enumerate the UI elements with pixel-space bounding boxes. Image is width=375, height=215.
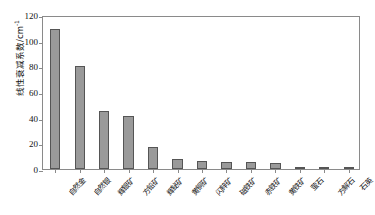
bar-item (197, 15, 207, 169)
bar-item (50, 15, 60, 169)
bar (148, 147, 158, 169)
y-tick-label: 80 (0, 62, 38, 72)
y-tick-label: 40 (0, 114, 38, 124)
x-tick-label: 石英 (357, 175, 375, 193)
x-tick-label: 萤石 (308, 175, 326, 193)
bar (123, 116, 133, 169)
x-tick-mark (226, 169, 227, 173)
bar-series (43, 17, 359, 169)
bar-item (99, 15, 109, 169)
bar-item (172, 15, 182, 169)
x-tick-mark (80, 169, 81, 173)
x-tick-mark (349, 169, 350, 173)
bar (197, 161, 207, 169)
x-tick-mark (153, 169, 154, 173)
bar (50, 29, 60, 169)
bar-item (246, 15, 256, 169)
bar-item (319, 15, 329, 169)
y-tick-mark (39, 68, 43, 69)
x-tick-mark (178, 169, 179, 173)
x-tick-label: 自然金 (65, 175, 88, 198)
bar-item (270, 15, 280, 169)
y-tick-mark (39, 171, 43, 172)
x-tick-label: 闪锌矿 (212, 175, 235, 198)
bar (99, 111, 109, 169)
x-tick-label: 辉银矿 (114, 175, 137, 198)
y-tick-mark (39, 120, 43, 121)
x-tick-label: 黄铁矿 (286, 175, 309, 198)
x-tick-label: 辉铋矿 (163, 175, 186, 198)
x-tick-label: 磁铁矿 (237, 175, 260, 198)
bar-item (221, 15, 231, 169)
y-tick-label: 120 (0, 11, 38, 21)
bar (246, 162, 256, 169)
bar-item (123, 15, 133, 169)
y-tick-mark (39, 145, 43, 146)
x-tick-mark (104, 169, 105, 173)
y-tick-mark (39, 17, 43, 18)
x-tick-mark (300, 169, 301, 173)
bar (75, 66, 85, 169)
x-tick-mark (202, 169, 203, 173)
bar-item (75, 15, 85, 169)
x-tick-mark (55, 169, 56, 173)
x-tick-label: 自然银 (90, 175, 113, 198)
y-tick-mark (39, 43, 43, 44)
x-tick-mark (251, 169, 252, 173)
y-tick-label: 0 (0, 165, 38, 175)
x-tick-label: 赤铁矿 (261, 175, 284, 198)
bar-item (344, 15, 354, 169)
x-tick-label: 方解石 (334, 175, 357, 198)
bar (221, 162, 231, 169)
x-tick-mark (129, 169, 130, 173)
y-tick-label: 100 (0, 37, 38, 47)
x-tick-label: 黄铜矿 (188, 175, 211, 198)
y-tick-label: 20 (0, 139, 38, 149)
bar-item (295, 15, 305, 169)
plot-area (42, 16, 360, 170)
x-tick-label: 方铅矿 (139, 175, 162, 198)
bar-item (148, 15, 158, 169)
x-tick-mark (324, 169, 325, 173)
y-tick-mark (39, 94, 43, 95)
bar (172, 159, 182, 169)
y-tick-label: 60 (0, 88, 38, 98)
x-tick-mark (275, 169, 276, 173)
